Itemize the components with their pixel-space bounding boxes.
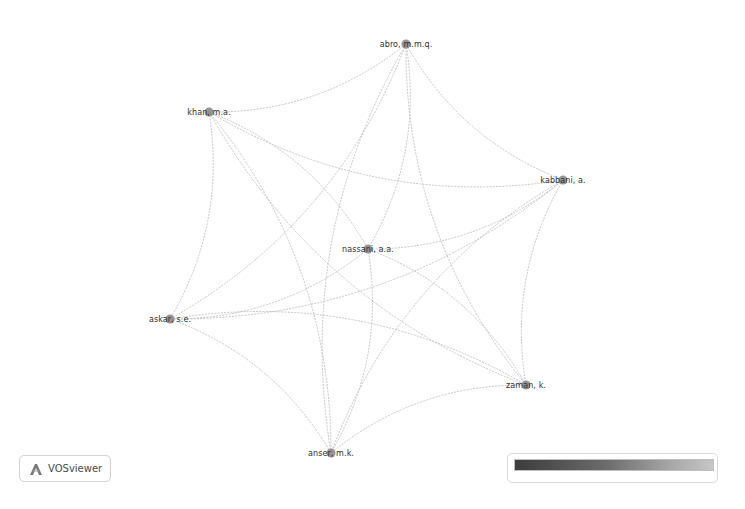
edge-nassani-zaman[interactable] (368, 249, 526, 385)
edge-kabbani-anser[interactable] (331, 180, 563, 453)
node-label-askar[interactable]: askar, s.e. (149, 315, 191, 324)
edge-nassani-anser[interactable] (331, 249, 373, 453)
edge-askar-zaman[interactable] (170, 311, 526, 385)
node-label-abro[interactable]: abro, m.m.q. (380, 40, 433, 49)
node-label-zaman[interactable]: zaman, k. (506, 381, 546, 390)
node-label-nassani[interactable]: nassani, a.a. (342, 245, 394, 254)
edge-khan-anser[interactable] (209, 112, 331, 453)
edge-zaman-anser[interactable] (331, 385, 526, 453)
vosviewer-brand-text: VOSviewer (48, 463, 102, 474)
edge-khan-askar[interactable] (170, 112, 213, 319)
vosviewer-badge: VOSviewer (19, 455, 111, 482)
edge-abro-nassani[interactable] (368, 44, 410, 249)
node-label-kabbani[interactable]: kabbani, a. (540, 176, 585, 185)
edge-abro-askar[interactable] (170, 44, 406, 319)
edge-abro-zaman[interactable] (406, 44, 526, 385)
node-label-khan[interactable]: khan, m.a. (187, 108, 231, 117)
edge-abro-kabbani[interactable] (406, 44, 563, 180)
network-canvas[interactable] (0, 0, 745, 509)
edge-askar-anser[interactable] (170, 319, 331, 453)
edge-kabbani-nassani[interactable] (368, 180, 563, 249)
edge-khan-nassani[interactable] (209, 112, 368, 249)
edge-kabbani-zaman[interactable] (521, 180, 563, 385)
edge-nassani-askar[interactable] (170, 249, 368, 319)
vosviewer-logo-icon (28, 462, 44, 476)
node-label-anser[interactable]: anser, m.k. (308, 449, 354, 458)
color-scale-gradient-bar (514, 459, 714, 471)
color-scale-legend (507, 453, 718, 483)
edge-khan-kabbani[interactable] (209, 112, 563, 187)
